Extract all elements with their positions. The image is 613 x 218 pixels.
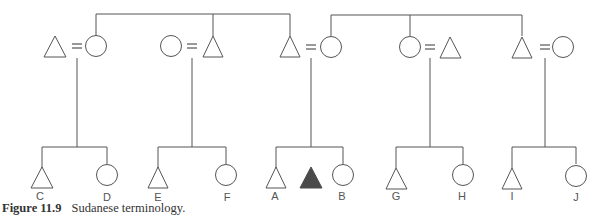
cousin-h-circle-icon bbox=[453, 165, 474, 186]
female-circle-icon bbox=[161, 36, 182, 57]
label-j: J bbox=[573, 191, 579, 203]
figure-caption: Figure 11.9Sudanese terminology. bbox=[2, 201, 185, 216]
label-a: A bbox=[271, 190, 279, 202]
male-triangle-icon bbox=[512, 37, 532, 58]
female-circle-icon bbox=[553, 37, 574, 58]
mother-circle-icon bbox=[321, 37, 342, 58]
ego-filled-triangle-icon bbox=[300, 167, 322, 188]
marriage-sign-1 bbox=[72, 44, 82, 48]
marriage-sign-4 bbox=[425, 45, 435, 49]
female-circle-icon bbox=[400, 37, 421, 58]
figure-title: Sudanese terminology. bbox=[72, 201, 186, 215]
figure-number: Figure 11.9 bbox=[2, 201, 62, 215]
female-circle-icon bbox=[86, 36, 107, 57]
cousin-c-triangle-icon bbox=[31, 167, 53, 188]
marriage-sign-5 bbox=[540, 45, 550, 49]
cousin-e-triangle-icon bbox=[148, 167, 168, 188]
label-i: I bbox=[510, 190, 513, 202]
male-triangle-icon bbox=[203, 36, 223, 57]
label-h: H bbox=[458, 190, 466, 202]
cousin-j-circle-icon bbox=[566, 166, 587, 187]
marriage-sign-3 bbox=[306, 45, 316, 49]
male-triangle-icon bbox=[440, 37, 461, 58]
couple-3-ego-parents bbox=[280, 36, 342, 58]
kinship-diagram: C D E F A B G H I J bbox=[0, 0, 613, 218]
sibling-b-circle-icon bbox=[333, 165, 354, 186]
cousin-d-circle-icon bbox=[97, 165, 118, 186]
maternal-sibling-bar bbox=[331, 15, 522, 36]
couple-5 bbox=[512, 37, 574, 59]
sibling-a-triangle-icon bbox=[266, 167, 286, 188]
descent-lines bbox=[77, 58, 545, 147]
couple-2 bbox=[161, 36, 224, 58]
paternal-sibling-bar bbox=[96, 14, 290, 36]
cousin-g-triangle-icon bbox=[386, 168, 407, 189]
label-g: G bbox=[392, 190, 401, 202]
marriage-sign-2 bbox=[187, 44, 197, 48]
male-triangle-icon bbox=[44, 36, 66, 57]
couple-1 bbox=[44, 36, 107, 58]
label-b: B bbox=[338, 190, 345, 202]
children-bars bbox=[42, 147, 576, 168]
label-f: F bbox=[224, 191, 231, 203]
father-triangle-icon bbox=[280, 36, 300, 57]
couple-4 bbox=[400, 37, 462, 59]
cousin-i-triangle-icon bbox=[502, 168, 522, 189]
cousin-f-circle-icon bbox=[216, 165, 237, 186]
